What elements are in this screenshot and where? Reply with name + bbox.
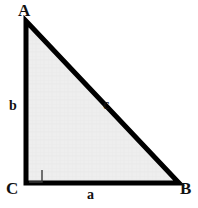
- vertex-label-c-upper: C: [6, 180, 18, 197]
- side-label-a: a: [87, 188, 94, 202]
- triangle-graphic: [0, 0, 198, 208]
- right-triangle-diagram: A B C a b c: [0, 0, 198, 208]
- side-label-c: c: [103, 98, 109, 112]
- vertex-label-a-upper: A: [18, 2, 30, 19]
- side-label-b: b: [9, 99, 17, 113]
- vertex-label-b-upper: B: [180, 180, 191, 197]
